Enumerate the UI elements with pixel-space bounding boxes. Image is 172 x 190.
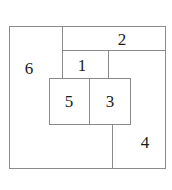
region-4-label: 4	[141, 134, 150, 151]
region-2	[62, 26, 165, 50]
outer-bottom	[9, 168, 166, 169]
region-2-label: 2	[118, 31, 127, 48]
squared-square-diagram: 621534	[0, 0, 172, 190]
region-1-label: 1	[78, 57, 87, 74]
divider-1-right	[108, 50, 109, 79]
outer-right	[165, 26, 166, 169]
region-4	[112, 50, 165, 168]
region-5-label: 5	[65, 93, 74, 110]
region-6-label: 6	[25, 60, 34, 77]
